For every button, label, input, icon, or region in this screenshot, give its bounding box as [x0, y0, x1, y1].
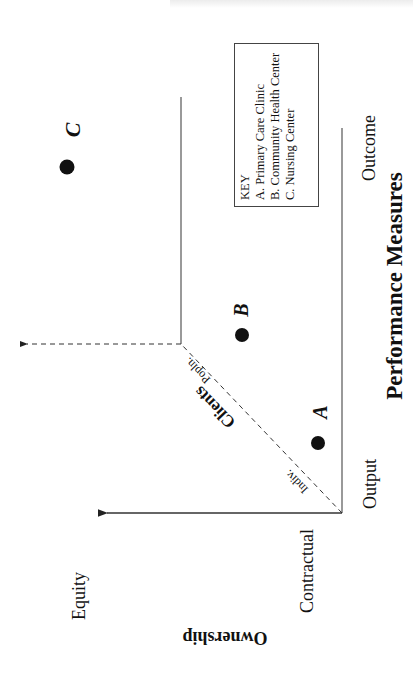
- point-c-dot: [60, 160, 75, 175]
- point-b-dot: [235, 328, 249, 342]
- point-b-label: B: [231, 300, 251, 320]
- key-item-a: A. Primary Care Clinic: [253, 46, 268, 200]
- point-a-dot: [311, 436, 325, 450]
- performance-measures-title: Performance Measures: [383, 160, 407, 412]
- contractual-label: Contractual: [298, 521, 318, 621]
- key-legend: KEY A. Primary Care Clinic B. Community …: [234, 43, 319, 207]
- diagram-lines: [0, 0, 413, 696]
- outcome-label: Outcome: [360, 108, 380, 188]
- output-label: Output: [361, 454, 381, 514]
- equity-label: Equity: [70, 566, 90, 626]
- point-c-label: C: [62, 119, 84, 141]
- key-title: KEY: [238, 46, 253, 200]
- key-item-c: C. Nursing Center: [283, 46, 298, 200]
- diagram-canvas: A B C KEY A. Primary Care Clinic B. Comm…: [0, 0, 413, 696]
- key-item-b: B. Community Health Center: [268, 46, 283, 200]
- point-a-label: A: [310, 402, 330, 422]
- ownership-title: Ownership: [175, 627, 275, 647]
